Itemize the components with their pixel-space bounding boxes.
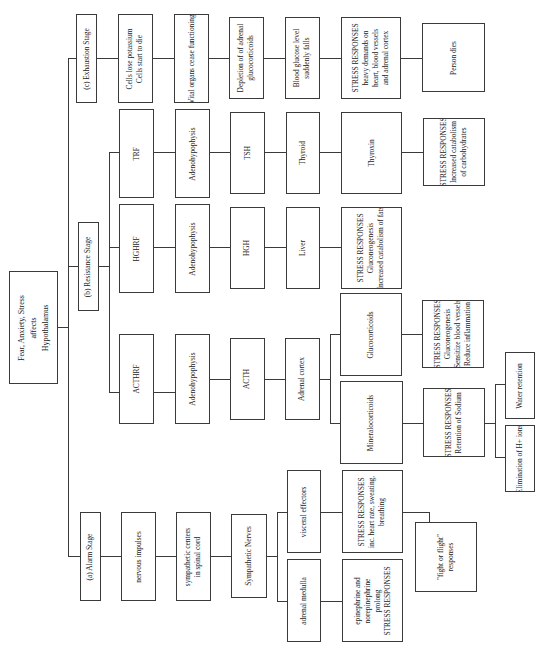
box-text: nervous impulses [134,531,144,583]
sympathetic-centers-box: sympathetic centersin spinal cord [176,512,211,601]
box-text: Blood glucose level [293,29,303,88]
connector [109,247,119,248]
fight-or-flight-box: "fight or flight"responses [415,522,477,592]
box-text: suddenly falls [303,29,313,88]
box-text: Increased catabolism of fats [377,207,387,289]
box-text: Gluconeogenesis [367,207,377,289]
connector [495,384,505,385]
nerves-bus [277,512,278,601]
box-text: norepinephrine [363,566,373,635]
exhaustion-stress-responses-box: STRESS RESPONSESheavy demands onheart, b… [341,17,401,99]
box-text: epinephrine and [353,566,363,635]
person-dies-box: Person dies [422,23,485,92]
adenohypophysis-tsh-box: Adenohypophysis [175,109,210,198]
adrenal-medulla-box: adrenal medulla [287,559,321,642]
connector [210,379,230,380]
thyroxin-box: Thyroxin [341,112,402,194]
exhaustion-stage-box: (c) Exhaustion Stage [76,14,97,103]
connector [402,334,422,335]
box-text: heart, blood vessels [371,23,381,92]
glucocorticoids-box: Glucocorticoids [340,293,402,376]
connector [58,327,68,328]
box-text: Glucocorticoids [366,311,376,358]
connector [264,58,285,59]
box-text: inc. heart rate, sweating, [368,475,378,547]
spine-line [68,58,69,556]
hgh-stress-responses-box: STRESS RESPONSESGluconeogenesisIncreased… [341,207,402,289]
medulla-stress-responses-box: epinephrine andnorepinephrineprolongSTRE… [342,559,403,642]
box-text: Thyroxin [366,139,376,167]
elimination-h-ions-box: Elimination of H+ ions [505,425,535,492]
connector [68,58,76,59]
connector [99,266,109,267]
tsh-box: TSH [230,112,265,194]
box-text: Adrenal cortex [298,357,308,401]
box-text: Mineralocorticoids [367,394,377,450]
adenohypophysis-acth-box: Adenohypophysis [175,334,210,424]
box-text: Adenohypophysis [188,352,198,405]
box-text: Sensitize blood vessels [453,300,463,368]
acth-box: ACTH [230,338,265,420]
adenohypophysis-hgh-box: Adenohypophysis [175,204,210,293]
resistance-bus [109,152,110,392]
box-text: of carbohydrates [459,118,469,186]
box-text: breathing [378,475,388,547]
root-box: Fear, Anxiety, Stress affects Hypothalam… [9,271,58,384]
tsh-stress-responses-box: STRESS RESPONSESIncreased catabolismof c… [423,118,485,186]
box-text: and adrenal cortex [381,23,391,92]
box-text: Liver [298,240,308,256]
thyroid-box: Thyroid [286,112,320,194]
box-text: Cells start to die [136,28,146,89]
connector [401,58,422,59]
box-text: STRESS RESPONSES [439,118,449,186]
box-text: STRESS RESPONSES [433,300,443,368]
connector [330,334,340,335]
box-text: glucocorticoids [247,24,257,93]
box-text: Reduce inflammation [463,300,473,368]
box-text: in spinal cord [194,527,204,586]
connector [429,512,430,522]
box-text: responses [446,534,456,580]
box-text: STRESS RESPONSES [358,475,368,547]
box-text: STRESS RESPONSES [383,566,393,635]
connector [320,247,341,248]
adrenal-cortex-box: Adrenal cortex [285,338,320,420]
connector [109,392,119,393]
connector [320,152,341,153]
connector [330,423,340,424]
connector [320,379,330,380]
mineral-stress-responses-box: STRESS RESPONSESRetention of Sodium [423,388,485,457]
visceral-effectors-box: visceral effectors [287,470,321,553]
hghrf-box: HGHRF [119,204,154,293]
box-text: sympathetic centers [184,527,194,586]
connector [402,152,423,153]
connector [209,58,229,59]
box-text: Elimination of H+ ions [515,425,525,492]
gluco-stress-responses-box: STRESS RESPONSESGluconeogenesisSensitize… [422,300,484,368]
box-text: prolong [373,566,383,635]
connector [320,58,341,59]
depletion-box: Depletion of of adrenalglucocorticoids [229,17,264,99]
connector [265,247,286,248]
box-text: Adenohypophysis [188,127,198,180]
resistance-stage-box: (b) Resistance Stage [78,222,99,311]
box-text: HGHRF [132,236,142,261]
connector [101,556,121,557]
connector [403,512,429,513]
connector [211,556,231,557]
mineral-bus [495,384,496,457]
connector [109,152,119,153]
box-text: Sympathetic Nerves [244,526,254,586]
box-text: Cells lose potassium [126,28,136,89]
sympathetic-nerves-box: Sympathetic Nerves [231,514,267,598]
box-text: TRF [132,147,142,161]
connector [153,58,174,59]
connector [68,266,78,267]
connector [154,392,175,393]
box-text: visceral effectors [299,486,309,537]
connector [495,457,505,458]
box-text: adrenal medulla [299,577,309,624]
box-text: Thyroid [298,141,308,165]
box-text: Gluconeogenesis [443,300,453,368]
cortex-bus [330,334,331,423]
